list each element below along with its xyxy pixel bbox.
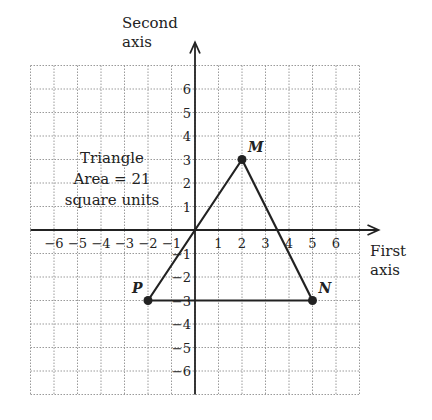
x-tick-label: 5 bbox=[308, 236, 316, 251]
x-tick-label: 1 bbox=[214, 236, 222, 251]
vertex-label-n: N bbox=[318, 280, 333, 296]
vertex-dot-n bbox=[308, 296, 317, 305]
x-tick-label: −3 bbox=[115, 236, 134, 251]
annotation-line3: square units bbox=[65, 191, 160, 209]
x-tick-label: 2 bbox=[238, 236, 246, 251]
area-annotation: Triangle Area = 21 square units bbox=[65, 149, 160, 209]
y-tick-label: 2 bbox=[183, 176, 191, 191]
coordinate-plane: −6−5−4−3−2−1123456654321−1−2−3−4−5−6 MNP… bbox=[0, 0, 432, 420]
y-tick-label: −4 bbox=[172, 317, 191, 332]
y-tick-label: 4 bbox=[183, 129, 191, 144]
annotation-line2: Area = 21 bbox=[72, 170, 150, 188]
x-tick-label: −2 bbox=[138, 236, 157, 251]
x-axis-title-line1: First bbox=[370, 242, 406, 260]
y-tick-label: −6 bbox=[172, 364, 191, 379]
y-tick-label: 3 bbox=[183, 153, 191, 168]
x-tick-label: −6 bbox=[44, 236, 63, 251]
vertex-label-m: M bbox=[247, 139, 264, 155]
annotation-line1: Triangle bbox=[80, 149, 144, 167]
y-tick-label: −2 bbox=[172, 270, 191, 285]
axes bbox=[31, 43, 379, 395]
x-axis-title-line2: axis bbox=[370, 261, 400, 279]
coordinate-plane-figure: −6−5−4−3−2−1123456654321−1−2−3−4−5−6 MNP… bbox=[0, 0, 432, 420]
vertex-dot-p bbox=[144, 296, 153, 305]
y-tick-label: 6 bbox=[183, 82, 191, 97]
x-tick-label: −4 bbox=[91, 236, 110, 251]
y-axis-title-line1: Second bbox=[122, 14, 178, 32]
x-tick-label: −5 bbox=[68, 236, 87, 251]
y-tick-label: 5 bbox=[183, 106, 191, 121]
x-tick-label: 6 bbox=[332, 236, 340, 251]
vertex-dot-m bbox=[238, 155, 247, 164]
y-axis-title-line2: axis bbox=[122, 33, 152, 51]
vertex-label-p: P bbox=[131, 280, 143, 296]
vertex-labels: MNP bbox=[131, 139, 333, 296]
x-tick-label: 3 bbox=[261, 236, 269, 251]
y-tick-label: 1 bbox=[183, 200, 191, 215]
y-tick-label: −5 bbox=[172, 341, 191, 356]
